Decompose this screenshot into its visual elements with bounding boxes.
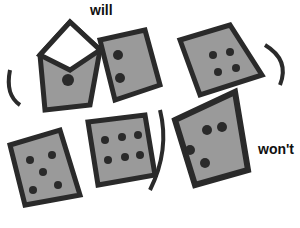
die-bottom-left xyxy=(10,130,80,205)
die-bottom-right xyxy=(175,92,248,185)
motion-stroke xyxy=(265,45,283,85)
dice-drawing xyxy=(0,0,300,228)
die-top-left xyxy=(40,22,100,110)
dice-illustration: will won't xyxy=(0,0,300,228)
die-top-center xyxy=(100,30,160,100)
motion-stroke xyxy=(9,70,20,105)
label-will: will xyxy=(90,2,113,18)
die-top-right xyxy=(180,25,262,95)
label-wont: won't xyxy=(258,141,294,157)
die-bottom-center xyxy=(88,115,155,185)
